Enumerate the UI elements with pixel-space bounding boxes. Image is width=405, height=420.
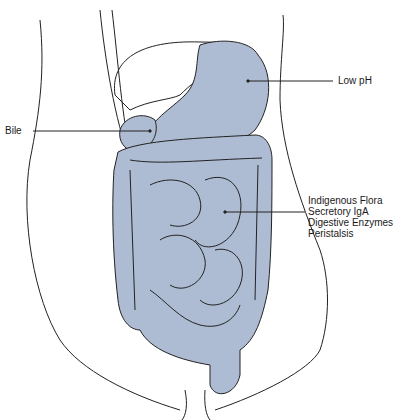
label-peristalsis: Peristalsis [308, 228, 393, 239]
label-digestive-enzymes: Digestive Enzymes [308, 217, 393, 228]
label-indigenous-flora: Indigenous Flora [308, 195, 393, 206]
label-low-ph: Low pH [338, 75, 372, 86]
large-intestine [113, 135, 272, 394]
label-secretory-iga: Secretory IgA [308, 206, 393, 217]
label-intestine-defenses: Indigenous Flora Secretory IgA Digestive… [308, 195, 393, 239]
label-bile: Bile [5, 125, 22, 136]
stomach [145, 41, 269, 150]
